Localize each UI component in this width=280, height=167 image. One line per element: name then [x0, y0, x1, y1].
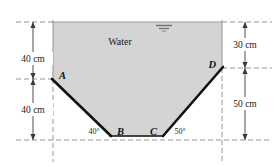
dimension-left-upper-label: 40 cm — [21, 54, 45, 64]
water-label: Water — [108, 36, 132, 47]
dimension-right-lower: 50 cm — [225, 68, 265, 140]
dimension-right-lower-label: 50 cm — [233, 99, 257, 109]
angle-label-b: 40° — [88, 127, 99, 136]
point-label-b: B — [116, 126, 124, 137]
point-label-c: C — [150, 126, 158, 137]
water-region-fill — [53, 22, 222, 136]
angle-label-c: 50° — [174, 127, 185, 136]
dimension-left-lower-label: 40 cm — [21, 105, 45, 115]
trough-cross-section-diagram: 40 cm 40 cm 30 cm 50 cm Water A — [0, 0, 280, 167]
figure-container: 40 cm 40 cm 30 cm 50 cm Water A — [0, 0, 280, 167]
dimension-right-upper-label: 30 cm — [233, 40, 257, 50]
dimension-right-upper: 30 cm — [225, 22, 265, 68]
point-label-a: A — [58, 70, 66, 81]
point-label-d: D — [207, 59, 216, 70]
dimension-left-upper: 40 cm — [13, 22, 53, 79]
dimension-left-lower: 40 cm — [13, 79, 53, 140]
